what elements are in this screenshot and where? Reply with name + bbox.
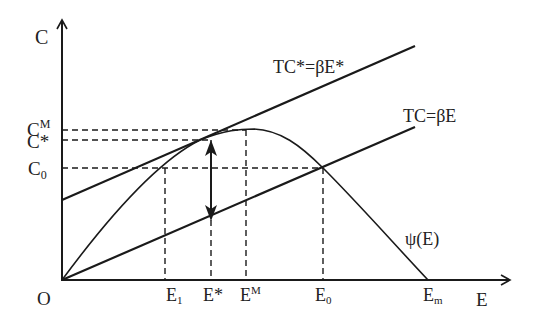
y-tick-c0: C0 — [28, 158, 47, 182]
svg-text:E1: E1 — [166, 285, 183, 306]
x-tick-estar: E* — [203, 285, 223, 305]
x-tick-e1: E1 — [166, 285, 183, 306]
x-tick-em: Em — [423, 285, 443, 306]
svg-text:C*: C* — [27, 131, 49, 152]
y-tick-cstar: C* — [27, 131, 49, 152]
svg-text:E*: E* — [203, 285, 223, 305]
svg-text:EM: EM — [240, 284, 261, 305]
psi-label: ψ(E) — [405, 229, 439, 250]
origin-label: O — [37, 288, 51, 309]
svg-text:C0: C0 — [28, 158, 47, 182]
diagram-canvas: C E O CM C* C0 E1 E* EM E0 Em TC*=βE* TC… — [0, 0, 536, 320]
tc-line — [62, 127, 415, 280]
guide-lines — [62, 130, 323, 280]
svg-text:Em: Em — [423, 285, 443, 306]
x-axis-label: E — [476, 289, 488, 310]
x-tick-em-max: EM — [240, 284, 261, 305]
y-axis-label: C — [35, 26, 48, 48]
x-tick-e0: E0 — [315, 285, 332, 306]
tc-star-line — [62, 46, 415, 200]
tc-star-label: TC*=βE* — [273, 57, 344, 77]
tc-label: TC=βE — [403, 106, 456, 126]
svg-text:E0: E0 — [315, 285, 332, 306]
